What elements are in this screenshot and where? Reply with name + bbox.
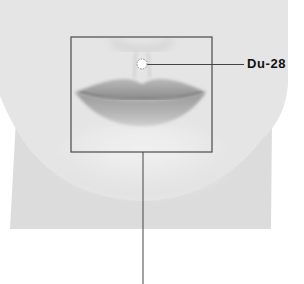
face-illustration xyxy=(0,0,304,284)
acupoint-marker[interactable] xyxy=(137,59,147,69)
acupoint-diagram: Du-28 xyxy=(0,0,304,284)
acupoint-label: Du-28 xyxy=(247,56,286,71)
